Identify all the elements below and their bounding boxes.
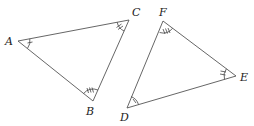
angle-mark-e [220,69,226,80]
triangle-abc-outline [18,20,129,101]
angle-mark-b [84,88,98,94]
triangle-abc [18,20,129,101]
triangle-def-outline [127,21,236,108]
angle-mark-f [160,28,173,34]
vertex-label-b: B [85,105,94,118]
vertex-label-e: E [239,71,248,84]
angle-mark-a [28,39,33,48]
vertex-label-f: F [158,6,167,19]
vertex-label-c: C [132,6,141,19]
vertex-label-d: D [119,111,129,124]
angle-mark-c [117,22,125,31]
triangle-def [127,21,236,108]
angle-mark-d [131,97,139,105]
congruent-triangles-diagram: A B C D E F [0,0,254,126]
vertex-label-a: A [4,35,13,48]
